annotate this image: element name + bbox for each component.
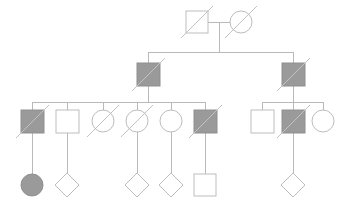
individual-III-3[interactable] xyxy=(87,105,119,137)
female-circle-open[interactable] xyxy=(312,110,334,132)
individual-I-2[interactable] xyxy=(225,6,257,38)
individual-III-5[interactable] xyxy=(160,110,182,132)
male-square-open[interactable] xyxy=(194,174,216,196)
female-circle-open[interactable] xyxy=(160,110,182,132)
individual-IV-1[interactable] xyxy=(21,174,43,196)
individual-IV-5[interactable] xyxy=(194,174,216,196)
generation-IV xyxy=(21,173,305,197)
pedigree-canvas xyxy=(0,0,357,215)
individual-III-2[interactable] xyxy=(56,110,79,133)
individual-IV-2[interactable] xyxy=(55,173,79,197)
male-square-open[interactable] xyxy=(56,110,79,133)
connector-lines xyxy=(32,22,323,174)
generation-III xyxy=(16,105,334,138)
individual-III-6[interactable] xyxy=(189,105,222,138)
individual-III-9[interactable] xyxy=(312,110,334,132)
individual-IV-6[interactable] xyxy=(281,173,305,197)
individual-II-2[interactable] xyxy=(277,58,310,91)
generation-II xyxy=(132,58,310,91)
individual-III-7[interactable] xyxy=(251,110,274,133)
individual-IV-3[interactable] xyxy=(125,173,149,197)
individual-II-1[interactable] xyxy=(132,58,165,91)
pedigree-chart xyxy=(0,0,357,215)
unknown-diamond-open[interactable] xyxy=(159,173,183,197)
individual-III-4[interactable] xyxy=(121,105,153,137)
individual-IV-4[interactable] xyxy=(159,173,183,197)
individual-III-8[interactable] xyxy=(277,105,310,138)
unknown-diamond-open[interactable] xyxy=(55,173,79,197)
individual-I-1[interactable] xyxy=(181,6,213,38)
individual-III-1[interactable] xyxy=(16,105,49,138)
female-circle-affected[interactable] xyxy=(21,174,43,196)
unknown-diamond-open[interactable] xyxy=(125,173,149,197)
unknown-diamond-open[interactable] xyxy=(281,173,305,197)
male-square-open[interactable] xyxy=(251,110,274,133)
